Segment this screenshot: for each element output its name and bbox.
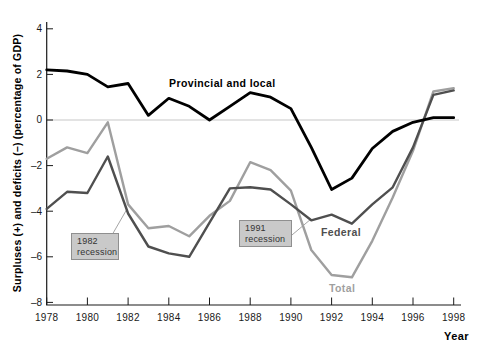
x-tick-label: 1988: [238, 312, 262, 323]
recession-1982-caption: recession: [77, 247, 115, 258]
x-tick-label: 1990: [279, 312, 303, 323]
recession-1982-year: 1982: [77, 236, 115, 247]
y-tick-label: –4: [31, 206, 43, 217]
x-tick-label: 1980: [76, 312, 100, 323]
recession-1982-leader-line: [112, 209, 127, 235]
chart-canvas: 420–2–4–6–819781980198219841986198819901…: [0, 0, 479, 355]
x-tick-label: 1978: [35, 312, 59, 323]
y-tick-label: 4: [36, 23, 42, 34]
series-label-total: Total: [329, 282, 355, 294]
y-tick-label: –8: [31, 297, 43, 308]
y-tick-label: 0: [36, 114, 42, 125]
y-tick-label: –2: [31, 160, 43, 171]
y-axis-title: Surpluses (+) and deficits (–) (percenta…: [11, 34, 23, 292]
recession-1991-caption: recession: [245, 234, 288, 245]
y-tick-label: –6: [31, 251, 43, 262]
x-axis-title: Year: [444, 330, 469, 342]
recession-1982-callout: 1982 recession: [71, 233, 119, 260]
x-tick-label: 1982: [116, 312, 140, 323]
x-tick-label: 1986: [198, 312, 222, 323]
y-tick-label: 2: [36, 69, 42, 80]
x-tick-label: 1994: [361, 312, 385, 323]
fiscal-balance-chart: 420–2–4–6–819781980198219841986198819901…: [0, 0, 479, 355]
recession-1991-callout: 1991 recession: [239, 220, 292, 247]
x-tick-label: 1984: [157, 312, 181, 323]
series-label-federal: Federal: [321, 226, 361, 238]
x-tick-label: 1996: [401, 312, 425, 323]
recession-1991-year: 1991: [245, 223, 288, 234]
x-tick-label: 1998: [442, 312, 466, 323]
series-label-provincial: Provincial and local: [169, 77, 276, 89]
x-tick-label: 1992: [320, 312, 344, 323]
